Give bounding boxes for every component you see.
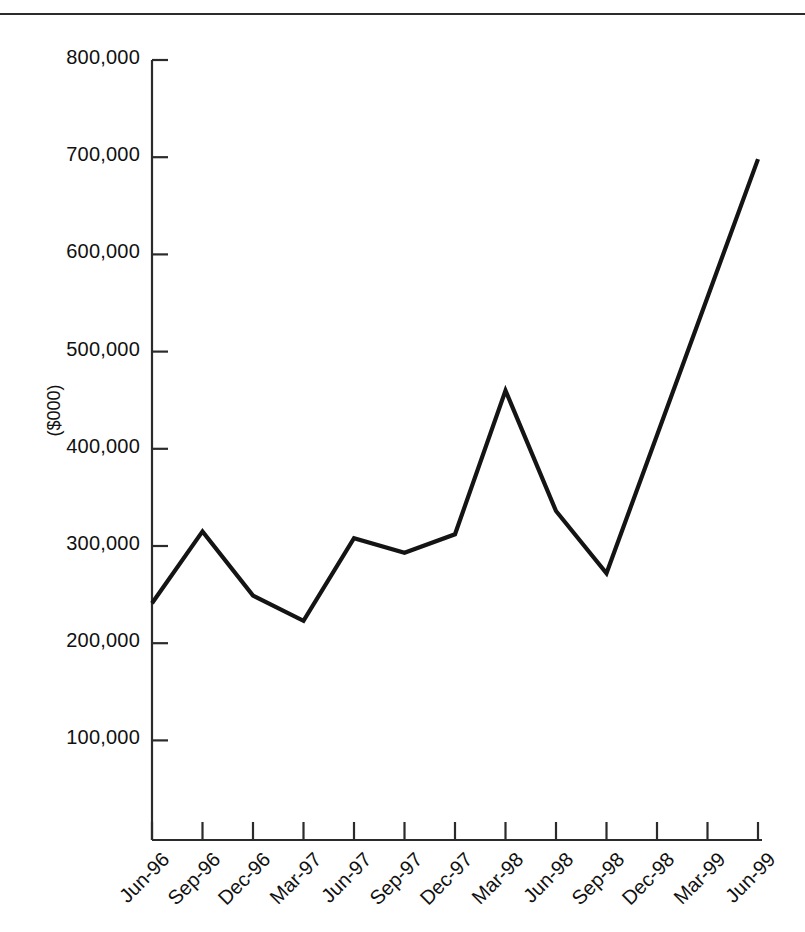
data-series-line [152, 159, 758, 621]
y-axis-tick-label: 800,000 [30, 46, 140, 69]
y-axis-tick-label: 300,000 [30, 532, 140, 555]
y-axis-tick-marks [152, 60, 168, 740]
y-axis-tick-label: 100,000 [30, 726, 140, 749]
y-axis-tick-label: 200,000 [30, 629, 140, 652]
chart-plot-area [0, 0, 805, 932]
y-axis-tick-label: 600,000 [30, 240, 140, 263]
x-axis-tick-marks [152, 822, 758, 840]
y-axis-tick-label: 700,000 [30, 143, 140, 166]
y-axis-title: ($000) [44, 351, 65, 471]
line-chart: 100,000200,000300,000400,000500,000600,0… [0, 0, 805, 932]
